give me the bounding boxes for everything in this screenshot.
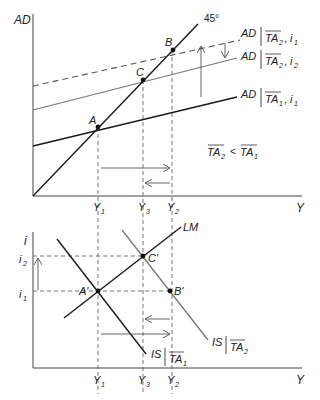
svg-text:2: 2 — [22, 260, 27, 267]
svg-text:TA: TA — [240, 146, 253, 158]
bottom-y3-tick: Y 3 — [138, 374, 150, 388]
is-ta2-label: IS TA 2 — [212, 336, 248, 355]
svg-text:i: i — [290, 93, 293, 105]
svg-text:1: 1 — [101, 208, 105, 215]
is-lm-diagram: AD Y 45° A C B AD TA 2 , — [0, 0, 320, 400]
top-y1-tick: Y 1 — [93, 201, 105, 215]
ad-ta1-i1-curve — [33, 97, 237, 146]
svg-text:AD: AD — [240, 50, 256, 62]
top-y2-tick: Y 2 — [167, 201, 179, 215]
svg-text:2: 2 — [293, 62, 298, 69]
y-axis-label-bottom: Y — [296, 373, 305, 387]
svg-text:2: 2 — [220, 153, 225, 160]
point-a-prime-label: A' — [78, 285, 89, 297]
top-y3-tick: Y 3 — [138, 201, 150, 215]
point-c — [141, 78, 146, 83]
svg-text:Y: Y — [93, 201, 101, 213]
ad-ta1-i1-label: AD TA 1 , i 1 — [240, 88, 298, 107]
lm-curve — [64, 227, 181, 318]
svg-text:2: 2 — [278, 39, 283, 46]
svg-text:3: 3 — [146, 381, 150, 388]
svg-text:AD: AD — [240, 27, 256, 39]
svg-text:<: < — [230, 146, 236, 157]
y-axis-label-top: Y — [296, 201, 305, 215]
is-ta1-label: IS TA 1 — [151, 348, 187, 367]
svg-text:1: 1 — [23, 295, 27, 302]
bottom-y1-tick: Y 1 — [93, 374, 105, 388]
svg-text:,: , — [284, 93, 287, 105]
ad-axis-label: AD — [13, 13, 31, 27]
svg-text:2: 2 — [278, 62, 283, 69]
svg-text:3: 3 — [146, 208, 150, 215]
svg-text:1: 1 — [294, 100, 298, 107]
svg-text:1: 1 — [254, 153, 258, 160]
point-a-prime — [96, 289, 101, 294]
bottom-y2-tick: Y 2 — [167, 374, 179, 388]
svg-text:2: 2 — [174, 208, 179, 215]
point-a-label: A — [88, 114, 96, 126]
svg-text:i: i — [290, 32, 293, 44]
svg-text:,: , — [284, 55, 287, 67]
svg-text:Y: Y — [138, 201, 146, 213]
ad-ta2-i2-label: AD TA 2 , i 2 — [240, 50, 298, 69]
ta-inequality: TA 2 < TA 1 — [207, 145, 258, 160]
svg-text:Y: Y — [93, 374, 101, 386]
i1-tick: i 1 — [19, 288, 27, 302]
ad-ta2-i1-curve — [33, 40, 240, 86]
svg-text:Y: Y — [167, 374, 175, 386]
svg-text:TA: TA — [230, 341, 243, 353]
ad-ta2-i1-label: AD TA 2 , i 1 — [240, 27, 298, 46]
point-c-prime — [141, 254, 146, 259]
svg-text:IS: IS — [151, 348, 162, 360]
point-b — [171, 48, 176, 53]
svg-text:AD: AD — [240, 88, 256, 100]
svg-text:1: 1 — [294, 39, 298, 46]
bottom-panel: i Y LM A' C' B' i 2 i 1 IS — [19, 221, 305, 388]
point-b-prime — [168, 289, 173, 294]
svg-text:2: 2 — [243, 348, 248, 355]
svg-text:TA: TA — [207, 146, 220, 158]
svg-text:TA: TA — [169, 353, 182, 365]
svg-text:Y: Y — [167, 201, 175, 213]
lm-label: LM — [183, 221, 199, 233]
point-b-label: B — [165, 36, 172, 48]
svg-text:1: 1 — [101, 381, 105, 388]
svg-text:i: i — [290, 55, 293, 67]
point-c-label: C — [136, 66, 144, 78]
point-c-prime-label: C' — [148, 252, 159, 264]
svg-text:i: i — [19, 288, 22, 300]
svg-text:1: 1 — [279, 100, 283, 107]
is-ta2-curve — [122, 230, 208, 340]
point-b-prime-label: B' — [174, 285, 184, 297]
svg-text:IS: IS — [212, 336, 223, 348]
svg-text:TA: TA — [265, 55, 278, 67]
svg-text:Y: Y — [138, 374, 146, 386]
i-axis-label: i — [24, 234, 27, 248]
svg-text:2: 2 — [174, 381, 179, 388]
svg-text:i: i — [19, 253, 22, 265]
svg-text:TA: TA — [265, 32, 278, 44]
top-panel: AD Y 45° A C B AD TA 2 , — [13, 13, 305, 394]
svg-text:TA: TA — [265, 93, 278, 105]
i2-tick: i 2 — [19, 253, 27, 267]
svg-text:,: , — [284, 32, 287, 44]
45-degree-label: 45° — [204, 13, 219, 24]
svg-text:1: 1 — [183, 360, 187, 367]
ad-ta2-i2-curve — [33, 58, 237, 110]
